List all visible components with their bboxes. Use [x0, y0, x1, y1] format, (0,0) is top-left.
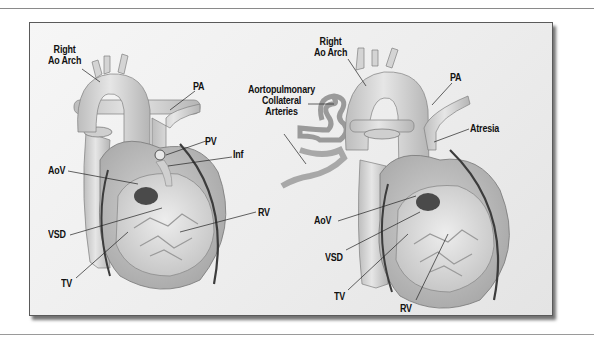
label-left-rv: RV [258, 207, 270, 218]
label-right-pa: PA [450, 72, 461, 83]
label-line: Ao Arch [48, 55, 81, 66]
label-left-pv: PV [205, 136, 217, 147]
label-left-inf: Inf [233, 149, 243, 160]
heart-illustrations [0, 0, 594, 342]
label-right-tv: TV [334, 291, 345, 302]
label-left-right-ao-arch: Right Ao Arch [48, 44, 81, 66]
label-left-pa: PA [193, 81, 204, 92]
left-heart-illustration [68, 54, 256, 289]
bottom-rule [0, 334, 594, 335]
label-left-tv: TV [61, 278, 72, 289]
label-left-vsd: VSD [48, 229, 66, 240]
label-right-rv: RV [400, 303, 412, 314]
right-heart-illustration [282, 48, 509, 308]
label-right-right-ao-arch: Right Ao Arch [314, 36, 347, 58]
label-left-aov: AoV [48, 165, 65, 176]
label-right-atresia: Atresia [470, 123, 499, 134]
label-right-aov: AoV [314, 215, 331, 226]
label-right-vsd: VSD [325, 252, 343, 263]
label-right-aortopulmonary-collateral-arteries: Aortopulmonary Collateral Arteries [248, 84, 315, 117]
label-line: Arteries [248, 106, 315, 117]
label-line: Ao Arch [314, 47, 347, 58]
